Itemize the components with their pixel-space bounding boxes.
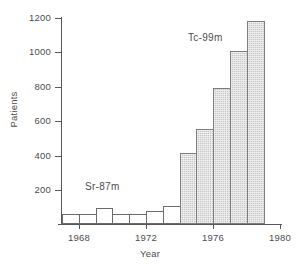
bar [230, 51, 248, 224]
bar [79, 214, 97, 224]
bar [146, 211, 164, 224]
bar [129, 214, 147, 224]
bar [180, 153, 198, 224]
bar [163, 206, 181, 224]
annotation-tc-99m: Tc-99m [188, 32, 223, 43]
chart-figure: 1200 1000 800 600 400 200 1968 1972 1976 [0, 0, 300, 270]
bar [247, 21, 265, 224]
bar [96, 208, 114, 224]
bar [196, 129, 214, 224]
annotation-sr-87m: Sr-87m [85, 181, 120, 192]
bar [213, 88, 231, 225]
bar-series-layer [0, 0, 300, 270]
plot-area: 1200 1000 800 600 400 200 1968 1972 1976 [0, 0, 300, 270]
bar [62, 214, 80, 224]
bar [112, 214, 130, 224]
